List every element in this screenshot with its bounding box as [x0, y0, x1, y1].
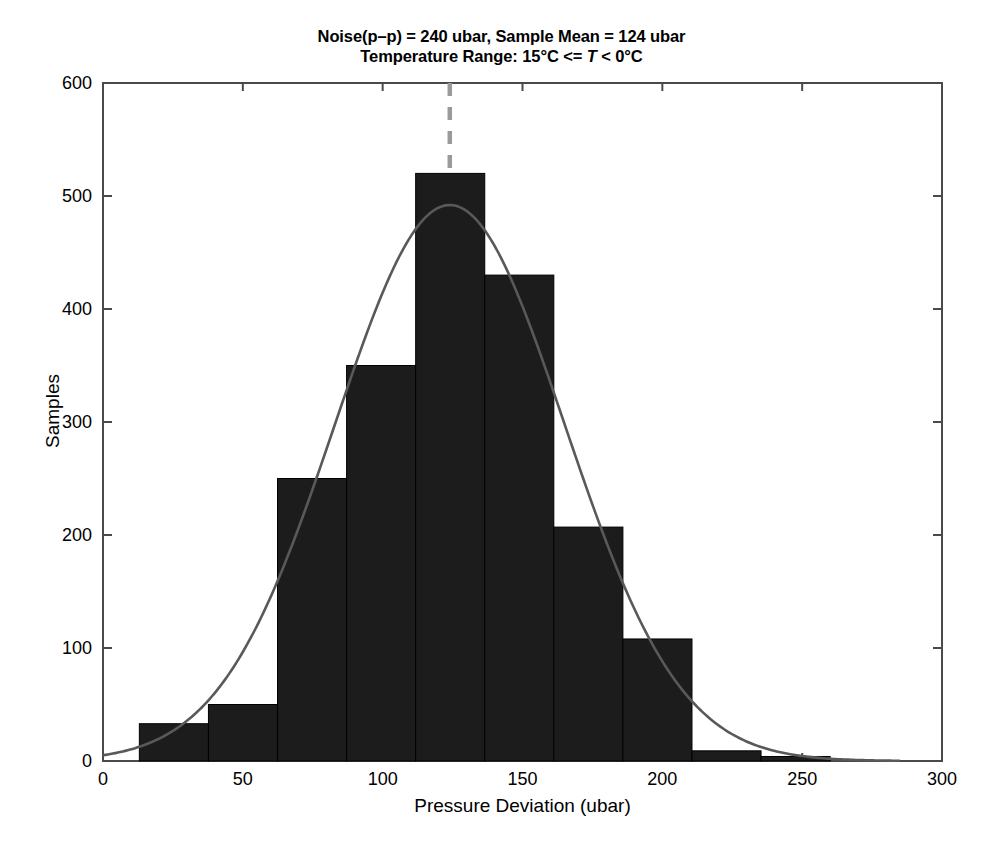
plot-canvas	[0, 0, 1003, 851]
histogram-bars	[139, 173, 830, 761]
histogram-bar	[416, 173, 485, 761]
histogram-bar	[485, 275, 554, 761]
histogram-bar	[347, 366, 416, 762]
histogram-bar	[692, 751, 761, 761]
histogram-bar	[208, 705, 277, 762]
histogram-bar	[623, 639, 692, 761]
histogram-bar	[554, 527, 623, 761]
histogram-bar	[278, 479, 347, 762]
histogram-figure: Noise(p–p) = 240 ubar, Sample Mean = 124…	[0, 0, 1003, 851]
